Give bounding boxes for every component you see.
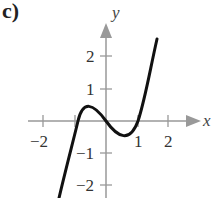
y-tick-label-neg2: −2 [76, 176, 94, 195]
y-tick-label-1: 1 [86, 80, 95, 99]
x-tick-label-2: 2 [164, 132, 173, 151]
y-tick-label-2: 2 [86, 47, 95, 66]
y-tick-label-neg1: −1 [76, 144, 94, 163]
x-axis-label: x [202, 111, 211, 130]
cubic-curve [59, 39, 157, 198]
x-tick-label-neg2: −2 [30, 132, 48, 151]
cubic-graph: −2 1 2 2 1 −1 −2 x y [0, 0, 221, 198]
y-axis-label: y [110, 3, 120, 22]
x-tick-label-1: 1 [134, 132, 143, 151]
